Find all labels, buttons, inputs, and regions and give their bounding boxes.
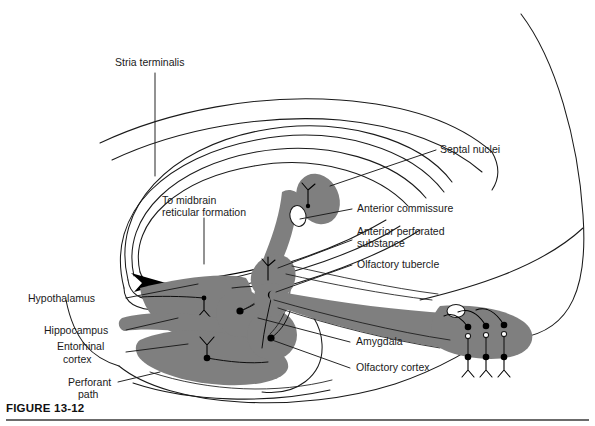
olfactory-cortex-shape	[431, 306, 532, 359]
olfactory-synapse-1	[465, 333, 470, 338]
label-perforant-line1: Perforant	[68, 376, 111, 388]
olfactory-synapse-2	[483, 332, 488, 337]
label-perforant-line2: path	[78, 388, 99, 400]
stria-terminalis-tail	[492, 152, 498, 190]
olfactory-lower-dendrites-1	[462, 357, 474, 377]
tubercle-to-tract-1	[286, 274, 432, 300]
figure-caption: FIGURE 13-12	[6, 402, 84, 414]
label-amygdala: Amygdala	[356, 335, 403, 347]
cortex-ventral-outline	[420, 228, 583, 300]
olfactory-lower-dendrites-2	[480, 357, 492, 377]
leader-anterior-perforated	[278, 240, 352, 268]
leader-perforant-path	[118, 372, 160, 382]
label-to-midbrain-line1: To midbrain	[162, 194, 216, 206]
label-entorhinal-line2: cortex	[63, 353, 92, 365]
figure-page: Stria terminalis To midbrain reticular f…	[0, 0, 595, 426]
olfactory-synapse-3	[501, 331, 506, 336]
label-olfactory-cortex: Olfactory cortex	[356, 361, 430, 373]
label-septal-nuclei: Septal nuclei	[440, 143, 500, 155]
label-anterior-perforated-line2: substance	[357, 237, 405, 249]
label-anterior-perforated-line1: Anterior perforated	[357, 225, 445, 237]
label-entorhinal-line1: Entorhinal	[57, 340, 104, 352]
olfactory-lower-dendrites-3	[498, 357, 510, 377]
label-hippocampus: Hippocampus	[44, 324, 108, 336]
label-stria-terminalis: Stria terminalis	[115, 56, 184, 68]
stria-terminalis-arcs	[100, 99, 498, 190]
cerebral-outline-right	[520, 14, 584, 338]
leader-septal-nuclei	[330, 150, 436, 186]
label-anterior-commissure: Anterior commissure	[357, 202, 453, 214]
limbic-system-diagram: Stria terminalis To midbrain reticular f…	[0, 0, 595, 426]
septal-soma	[306, 204, 310, 208]
label-olfactory-tubercle: Olfactory tubercle	[357, 258, 439, 270]
stria-terminalis-arc-1	[100, 99, 492, 152]
label-to-midbrain-line2: reticular formation	[162, 206, 246, 218]
label-hypothalamus: Hypothalamus	[28, 292, 95, 304]
